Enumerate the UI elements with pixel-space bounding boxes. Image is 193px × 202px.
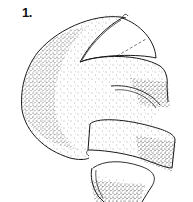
band-shading bbox=[0, 0, 193, 202]
orange-peel-spiral-illustration bbox=[0, 0, 193, 202]
